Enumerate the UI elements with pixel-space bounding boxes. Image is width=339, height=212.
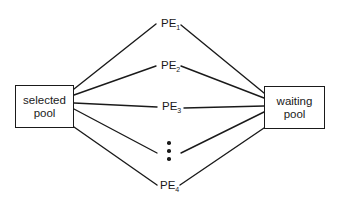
edge-selected-to-pe3 bbox=[74, 103, 157, 107]
pe3-subscript: 3 bbox=[177, 107, 181, 114]
pe4-label: PE4 bbox=[160, 179, 179, 191]
ellipsis-dot bbox=[167, 149, 171, 153]
edge-pe1-to-waiting bbox=[181, 25, 264, 93]
pe1-prefix: PE bbox=[161, 17, 176, 29]
ellipsis-dot bbox=[167, 157, 171, 161]
pe2-label: PE2 bbox=[161, 59, 180, 71]
selected-pool-label-line2: pool bbox=[34, 107, 56, 120]
pe3-prefix: PE bbox=[162, 100, 177, 112]
edge-pe3-to-waiting bbox=[184, 106, 264, 108]
selected-pool-label-line1: selected bbox=[23, 94, 66, 107]
edge-selected-to-pe1 bbox=[74, 24, 156, 89]
waiting-pool-node: waiting pool bbox=[264, 86, 325, 129]
waiting-pool-label-line1: waiting bbox=[277, 95, 313, 108]
pe3-label: PE3 bbox=[162, 100, 181, 112]
pe2-subscript: 2 bbox=[176, 66, 180, 73]
ellipsis-dot bbox=[167, 141, 171, 145]
edge-ellipsis-to-waiting bbox=[181, 112, 264, 153]
pe1-label: PE1 bbox=[161, 17, 180, 29]
edge-selected-to-pe4 bbox=[74, 127, 157, 185]
selected-pool-node: selected pool bbox=[15, 85, 74, 128]
edge-pe4-to-waiting bbox=[180, 128, 264, 185]
edge-selected-to-pe2 bbox=[74, 66, 156, 95]
edge-selected-to-ellipsis bbox=[74, 109, 157, 153]
pe4-prefix: PE bbox=[160, 179, 175, 191]
waiting-pool-label-line2: pool bbox=[284, 108, 306, 121]
vertical-ellipsis-icon bbox=[166, 140, 172, 162]
pe4-subscript: 4 bbox=[175, 186, 179, 193]
pe2-prefix: PE bbox=[161, 59, 176, 71]
pe1-subscript: 1 bbox=[176, 24, 180, 31]
